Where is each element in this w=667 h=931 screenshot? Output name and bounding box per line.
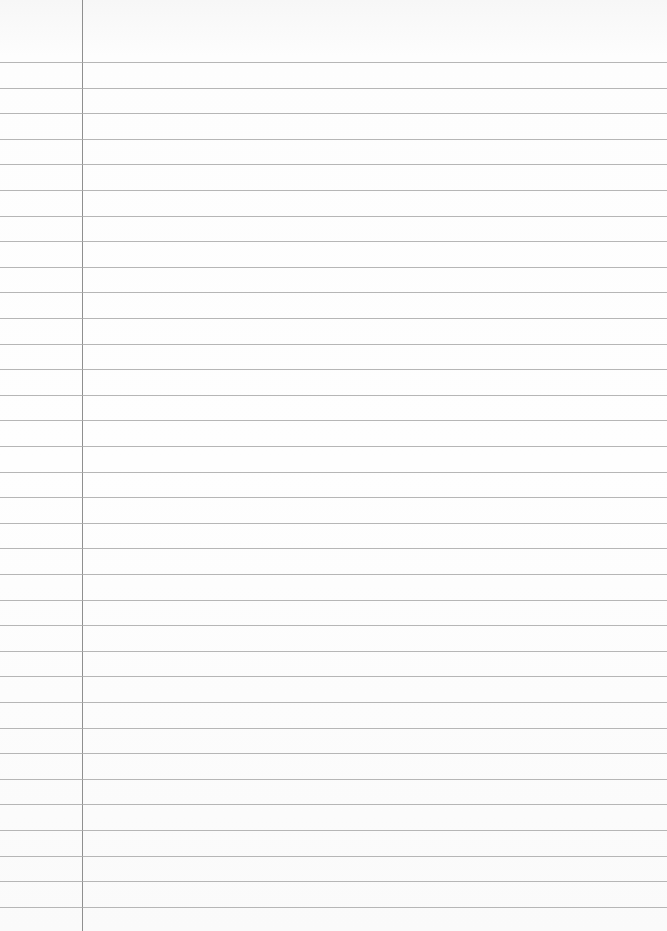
rule-line: [0, 779, 667, 780]
rule-line: [0, 907, 667, 908]
rule-line: [0, 728, 667, 729]
rule-line: [0, 702, 667, 703]
rule-line: [0, 369, 667, 370]
rule-line: [0, 472, 667, 473]
rule-line: [0, 446, 667, 447]
rule-line: [0, 574, 667, 575]
rule-line: [0, 395, 667, 396]
rule-line: [0, 651, 667, 652]
rule-line: [0, 548, 667, 549]
rule-line: [0, 113, 667, 114]
rule-line: [0, 62, 667, 63]
rule-line: [0, 523, 667, 524]
rule-line: [0, 88, 667, 89]
rule-line: [0, 420, 667, 421]
rule-line: [0, 600, 667, 601]
rule-line: [0, 164, 667, 165]
ruled-paper-sheet: [0, 0, 667, 931]
rule-line: [0, 267, 667, 268]
rule-line: [0, 856, 667, 857]
rule-line: [0, 190, 667, 191]
rule-line: [0, 497, 667, 498]
rule-line: [0, 625, 667, 626]
rule-line: [0, 292, 667, 293]
rule-line: [0, 139, 667, 140]
rule-line: [0, 753, 667, 754]
rule-line: [0, 676, 667, 677]
rule-line: [0, 241, 667, 242]
rule-line: [0, 318, 667, 319]
rule-line: [0, 830, 667, 831]
rule-line: [0, 344, 667, 345]
rule-line: [0, 881, 667, 882]
rule-line: [0, 804, 667, 805]
rule-line: [0, 216, 667, 217]
